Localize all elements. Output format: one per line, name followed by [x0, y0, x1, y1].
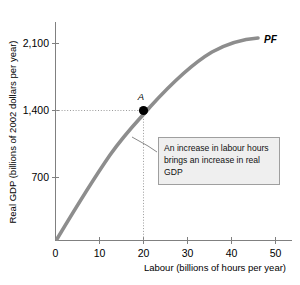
x-tick-label-20: 20 — [138, 247, 150, 259]
point-label-a: A — [137, 91, 144, 102]
point-marker-a — [139, 106, 148, 115]
annotation-callout: An increase in labour hours brings an in… — [158, 137, 280, 185]
x-tick-label-0: 0 — [53, 247, 59, 259]
production-function-chart: 2,100 1,400 700 0 10 20 30 40 50 Real GD… — [0, 0, 300, 285]
annotation-text: An increase in labour hours brings an in… — [164, 143, 269, 177]
x-axis-title: Labour (billions of hours per year) — [144, 262, 286, 273]
x-tick-label-10: 10 — [94, 247, 106, 259]
curve-label-pf: PF — [264, 34, 278, 45]
x-tick-label-30: 30 — [182, 247, 194, 259]
y-tick-label-2100: 2,100 — [23, 37, 49, 49]
y-axis-title: Real GDP (billions of 2002 dollars per y… — [7, 40, 18, 223]
x-tick-label-50: 50 — [270, 247, 282, 259]
x-tick-label-40: 40 — [226, 247, 238, 259]
y-tick-label-700: 700 — [31, 171, 49, 183]
y-tick-label-1400: 1,400 — [23, 104, 49, 116]
annotation-leader-line — [132, 137, 157, 152]
